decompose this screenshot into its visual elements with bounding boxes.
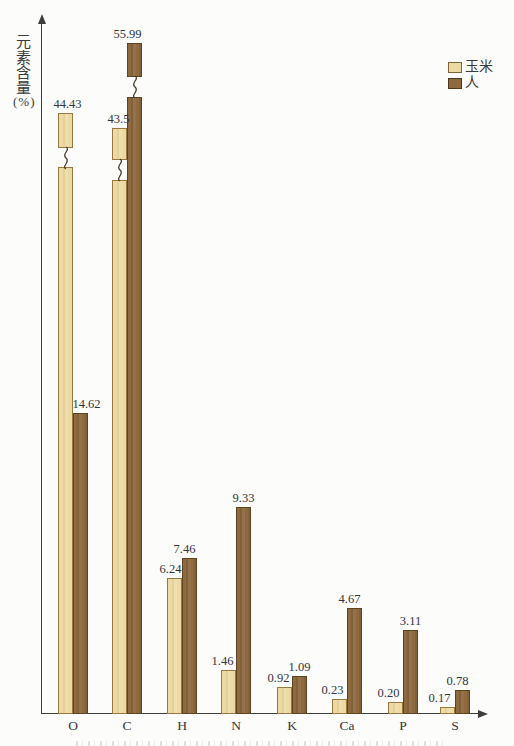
legend-label-human: 人 xyxy=(465,77,479,89)
bar-Ca-corn xyxy=(332,699,347,714)
bar-C-human-upper xyxy=(127,43,142,77)
value-label-Ca-corn: 0.23 xyxy=(308,683,358,698)
bar-O-corn-lower xyxy=(58,167,73,714)
bar-O-corn-upper xyxy=(58,113,73,148)
value-label-N-corn: 1.46 xyxy=(198,654,248,669)
value-label-C-human: 55.99 xyxy=(103,27,153,42)
bar-H-human xyxy=(182,558,197,714)
bar-H-corn xyxy=(167,578,182,714)
bar-P-corn xyxy=(388,702,403,714)
legend-item-human: 人 xyxy=(448,77,493,89)
legend-swatch-human xyxy=(448,78,462,89)
bar-S-corn xyxy=(440,707,455,714)
cropped-caption-strip xyxy=(76,741,448,746)
value-label-Ca-human: 4.67 xyxy=(325,592,375,607)
value-label-H-corn: 6.24 xyxy=(146,562,196,577)
x-label-Ca: Ca xyxy=(330,718,364,734)
bar-C-human-lower xyxy=(127,97,142,714)
element-content-bar-chart: 元素含量(%) 玉米人 44.4343.56.241.460.920.230.2… xyxy=(0,0,514,746)
value-label-O-human: 14.62 xyxy=(62,397,112,412)
x-label-N: N xyxy=(219,718,253,734)
bar-O-human xyxy=(73,413,88,714)
bar-N-human xyxy=(236,507,251,714)
axis-break-squiggle-C-human xyxy=(129,75,141,99)
legend: 玉米人 xyxy=(448,61,493,93)
x-label-C: C xyxy=(110,718,144,734)
value-label-P-human: 3.11 xyxy=(386,614,436,629)
value-label-C-corn: 43.5 xyxy=(94,112,144,127)
bar-K-corn xyxy=(277,687,292,714)
x-axis-arrow-icon xyxy=(478,710,488,718)
bar-C-corn-lower xyxy=(112,180,127,714)
y-axis-title-char: (%) xyxy=(13,94,35,110)
value-label-S-corn: 0.17 xyxy=(415,691,465,706)
x-label-P: P xyxy=(386,718,420,734)
axis-break-squiggle-C-corn xyxy=(114,158,126,182)
bar-C-corn-upper xyxy=(112,128,127,160)
x-label-O: O xyxy=(56,718,90,734)
y-axis-line xyxy=(41,24,42,714)
value-label-K-human: 1.09 xyxy=(275,660,325,675)
x-label-S: S xyxy=(438,718,472,734)
value-label-O-corn: 44.43 xyxy=(43,97,93,112)
value-label-S-human: 0.78 xyxy=(433,674,483,689)
x-label-K: K xyxy=(275,718,309,734)
bar-Ca-human xyxy=(347,608,362,714)
value-label-P-corn: 0.20 xyxy=(364,686,414,701)
value-label-N-human: 9.33 xyxy=(219,491,269,506)
value-label-H-human: 7.46 xyxy=(160,542,210,557)
axis-break-squiggle-O-corn xyxy=(60,146,72,170)
legend-item-corn: 玉米 xyxy=(448,61,493,73)
x-label-H: H xyxy=(165,718,199,734)
legend-label-corn: 玉米 xyxy=(465,61,493,73)
bar-N-corn xyxy=(221,670,236,714)
legend-swatch-corn xyxy=(448,62,462,73)
y-axis-arrow-icon xyxy=(38,14,46,24)
